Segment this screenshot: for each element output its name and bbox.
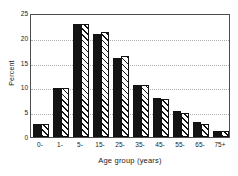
bar-group [93,32,110,137]
x-axis-title: Age group (years) [30,156,230,165]
bar-group [213,131,230,137]
y-axis-tick-labels: 0510152025 [14,14,28,138]
x-tick-label: 5- [77,140,83,150]
bar-group [113,56,130,137]
bar-hatched [181,113,189,137]
bar-group [173,111,190,137]
bar-hatched [101,32,109,137]
bar-series-container [31,15,229,137]
bar-group [33,124,50,137]
bar-solid [113,58,121,137]
bar-chart-figure: Percent 0510152025 0-1-5-15-25-35-45-55-… [0,0,238,176]
bar-solid [173,111,181,137]
bar-hatched [141,85,149,137]
bar-group [193,122,210,137]
x-tick-label: 15- [95,140,104,150]
y-tick-label: 0 [14,135,28,141]
bar-group [73,24,90,137]
x-tick-label: 0- [37,140,43,150]
bar-hatched [201,124,209,137]
y-tick-label: 25 [14,11,28,17]
bar-solid [193,122,201,137]
bar-hatched [81,24,89,137]
x-tick-label: 45- [155,140,164,150]
bar-solid [53,88,61,137]
bar-hatched [61,88,69,137]
y-tick-label: 5 [14,110,28,116]
bar-group [153,98,170,137]
bar-hatched [41,124,49,137]
y-tick-label: 20 [14,36,28,42]
x-tick-label: 25- [115,140,124,150]
y-tick-label: 10 [14,85,28,91]
bar-group [53,88,70,137]
y-tick-label: 15 [14,61,28,67]
bar-solid [33,124,41,137]
plot-area [30,14,230,138]
bar-solid [213,131,221,137]
bar-hatched [161,99,169,137]
bar-group [133,85,150,137]
x-tick-label: 35- [135,140,144,150]
bar-solid [73,24,81,137]
bar-hatched [121,56,129,137]
x-tick-label: 65- [195,140,204,150]
x-tick-label: 55- [175,140,184,150]
x-axis-tick-labels: 0-1-5-15-25-35-45-55-65-75+ [30,140,230,152]
bar-solid [133,85,141,137]
x-tick-label: 75+ [214,140,225,150]
x-tick-label: 1- [57,140,63,150]
bar-hatched [221,131,229,137]
bar-solid [93,34,101,137]
bar-solid [153,98,161,137]
